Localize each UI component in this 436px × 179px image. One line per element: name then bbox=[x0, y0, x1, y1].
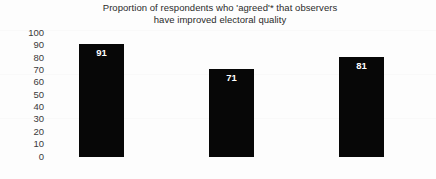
plot-area: 100 90 80 70 60 50 40 30 20 10 0 91 Ghan… bbox=[0, 0, 436, 179]
bar-kenya[interactable]: 71 bbox=[209, 69, 254, 157]
y-tick-label-10: 10 bbox=[0, 139, 44, 149]
y-tick-label-100: 100 bbox=[0, 28, 44, 38]
bar-uganda[interactable]: 81 bbox=[339, 57, 384, 157]
y-tick-label-70: 70 bbox=[0, 65, 44, 75]
bar-value-ghana: 91 bbox=[79, 47, 124, 58]
bar-value-uganda: 81 bbox=[339, 60, 384, 71]
y-tick-label-40: 40 bbox=[0, 102, 44, 112]
bar-ghana[interactable]: 91 bbox=[79, 44, 124, 157]
y-tick-label-20: 20 bbox=[0, 127, 44, 137]
bar-value-kenya: 71 bbox=[209, 72, 254, 83]
chart-figure: Proportion of respondents who 'agreed'* … bbox=[0, 0, 436, 179]
y-tick-label-0: 0 bbox=[0, 152, 44, 162]
y-tick-label-30: 30 bbox=[0, 114, 44, 124]
y-tick-label-50: 50 bbox=[0, 90, 44, 100]
y-axis: 100 90 80 70 60 50 40 30 20 10 0 bbox=[0, 0, 44, 179]
y-tick-label-90: 90 bbox=[0, 40, 44, 50]
y-tick-label-60: 60 bbox=[0, 77, 44, 87]
y-tick-label-80: 80 bbox=[0, 53, 44, 63]
